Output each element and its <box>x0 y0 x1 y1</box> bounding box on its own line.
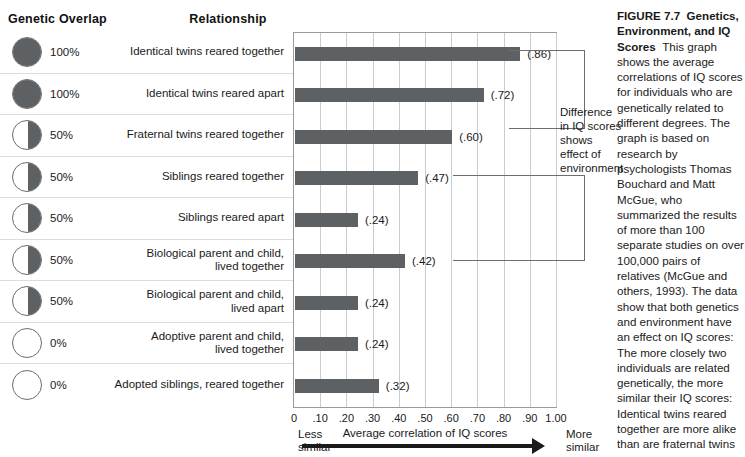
relationship-label: Biological parent and child,lived togeth… <box>88 246 284 273</box>
genetic-overlap-circle-icon <box>12 203 42 233</box>
x-axis-tick-label: .60 <box>444 412 459 424</box>
circle-fill <box>12 79 42 109</box>
table-row: 100%Identical twins reared apart <box>0 74 293 116</box>
x-axis-tick-label: .20 <box>339 412 354 424</box>
bar <box>295 88 484 102</box>
environment-effect-annotation: Difference in IQ scores shows effect of … <box>560 105 622 175</box>
more-similar-line2: similar <box>566 441 599 454</box>
bar-slot: (.32) <box>294 365 556 407</box>
genetic-overlap-value: 50% <box>50 212 73 224</box>
relationship-table: 100%Identical twins reared together100%I… <box>0 32 293 408</box>
caption-body: This graph shows the average correlation… <box>617 40 744 453</box>
relationship-label-line: lived together <box>88 343 284 357</box>
x-axis-tick-label: .90 <box>522 412 537 424</box>
relationship-label: Siblings reared together <box>88 170 284 184</box>
genetic-overlap-circle-icon <box>12 120 42 150</box>
bar <box>295 379 379 393</box>
genetic-overlap-value: 100% <box>50 88 79 100</box>
genetic-overlap-value: 50% <box>50 171 73 183</box>
bar <box>295 47 520 61</box>
relationship-label: Identical twins reared apart <box>88 87 284 101</box>
bar-slot: (.24) <box>294 324 556 366</box>
relationship-label-line: Adopted siblings, reared together <box>88 378 284 392</box>
x-axis-tick-label: 1.00 <box>545 412 566 424</box>
relationship-label: Biological parent and child,lived apart <box>88 288 284 315</box>
axis-end-label-less-similar: Less similar <box>298 428 331 454</box>
genetic-overlap-value: 50% <box>50 254 73 266</box>
genetic-overlap-circle-icon <box>12 162 42 192</box>
bar <box>295 130 452 144</box>
similarity-arrow-head <box>532 438 545 454</box>
circle-fill <box>12 37 42 67</box>
x-axis-ticks: 0.10.20.30.40.50.60.70.80.901.00 <box>293 412 557 428</box>
x-axis-tick-label: .10 <box>313 412 328 424</box>
genetic-overlap-value: 0% <box>50 337 67 349</box>
less-similar-line1: Less <box>298 428 331 441</box>
bar-value-label: (.32) <box>386 380 410 392</box>
similarity-arrow-line <box>302 444 534 448</box>
relationship-label-line: Identical twins reared together <box>88 46 284 60</box>
table-row: 0%Adoptive parent and child,lived togeth… <box>0 323 293 365</box>
bracket-siblings <box>453 175 585 261</box>
bar <box>295 254 405 268</box>
column-header-genetic-overlap: Genetic Overlap <box>8 12 107 26</box>
bar-value-label: (.47) <box>425 172 449 184</box>
circle-fill <box>28 203 42 233</box>
genetic-overlap-circle-icon <box>12 370 42 400</box>
relationship-label-line: lived apart <box>88 301 284 315</box>
genetic-overlap-value: 50% <box>50 129 73 141</box>
relationship-label-line: Adoptive parent and child, <box>88 329 284 343</box>
figure-caption: FIGURE 7.7 Genetics, Environment, and IQ… <box>617 8 745 453</box>
relationship-label-line: Fraternal twins reared together <box>88 129 284 143</box>
circle-fill <box>28 286 42 316</box>
table-row: 50%Biological parent and child,lived apa… <box>0 281 293 323</box>
genetic-overlap-circle-icon <box>12 79 42 109</box>
bar-slot: (.24) <box>294 282 556 324</box>
bar-value-label: (.42) <box>412 255 436 267</box>
table-row: 0%Adopted siblings, reared together <box>0 364 293 406</box>
genetic-overlap-circle-icon <box>12 37 42 67</box>
bar <box>295 171 418 185</box>
circle-fill <box>28 245 42 275</box>
relationship-label: Fraternal twins reared together <box>88 129 284 143</box>
x-axis-title: Average correlation of IQ scores <box>299 427 551 439</box>
relationship-label-line: Identical twins reared apart <box>88 87 284 101</box>
x-axis-tick-label: .50 <box>417 412 432 424</box>
genetic-overlap-circle-icon <box>12 328 42 358</box>
genetic-overlap-value: 0% <box>50 379 67 391</box>
genetic-overlap-value: 50% <box>50 295 73 307</box>
genetic-overlap-value: 100% <box>50 46 79 58</box>
table-row: 50%Siblings reared together <box>0 157 293 199</box>
relationship-label: Siblings reared apart <box>88 212 284 226</box>
table-row: 50%Biological parent and child,lived tog… <box>0 240 293 282</box>
table-row: 100%Identical twins reared together <box>0 32 293 74</box>
bar <box>295 213 358 227</box>
genetic-overlap-circle-icon <box>12 286 42 316</box>
circle-fill <box>28 120 42 150</box>
bar-value-label: (.60) <box>459 131 483 143</box>
relationship-label-line: Siblings reared together <box>88 170 284 184</box>
relationship-label-line: Siblings reared apart <box>88 212 284 226</box>
circle-fill <box>28 162 42 192</box>
relationship-label-line: lived together <box>88 260 284 274</box>
column-header-relationship: Relationship <box>168 12 288 26</box>
table-row: 50%Siblings reared apart <box>0 198 293 240</box>
table-row: 50%Fraternal twins reared together <box>0 115 293 157</box>
bar-value-label: (.24) <box>365 214 389 226</box>
relationship-label-line: Biological parent and child, <box>88 246 284 260</box>
bar-value-label: (.24) <box>365 297 389 309</box>
caption-figure-label: FIGURE 7.7 <box>617 9 680 22</box>
axis-end-label-more-similar: More similar <box>566 428 599 454</box>
x-axis-tick-label: .70 <box>470 412 485 424</box>
bar-value-label: (.24) <box>365 338 389 350</box>
x-axis-tick-label: .30 <box>365 412 380 424</box>
less-similar-line2: similar <box>298 441 331 454</box>
more-similar-line1: More <box>566 428 599 441</box>
x-axis-tick-label: .80 <box>496 412 511 424</box>
x-axis-tick-label: .40 <box>391 412 406 424</box>
bar <box>295 296 358 310</box>
relationship-label: Adoptive parent and child,lived together <box>88 329 284 356</box>
relationship-label: Adopted siblings, reared together <box>88 378 284 392</box>
relationship-label-line: Biological parent and child, <box>88 288 284 302</box>
